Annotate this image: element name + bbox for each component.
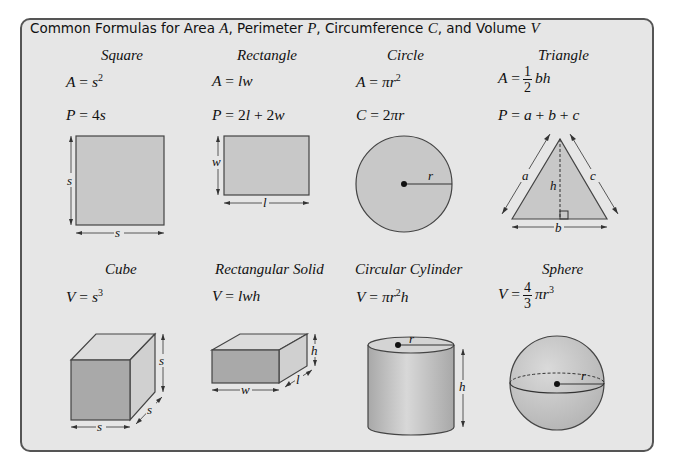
square-side-label: s — [67, 173, 72, 188]
rectangular-solid-width-label: w — [241, 382, 250, 397]
triangle-area-formula: A =12bh — [498, 64, 551, 95]
triangle-diagram: a c h b — [500, 135, 630, 245]
square-perimeter-formula: P = 4s — [66, 106, 106, 124]
cube-diagram: s s s — [66, 330, 176, 440]
sphere-diagram: r — [509, 335, 609, 435]
cylinder-title: Circular Cylinder — [355, 261, 462, 278]
panel-heading: Common Formulas for Area A, Perimeter P,… — [30, 20, 540, 37]
circle-title: Circle — [387, 47, 424, 64]
rectangular-solid-diagram: h l w — [212, 332, 322, 412]
rectangle-title: Rectangle — [237, 47, 297, 64]
square-area-formula: A = s2 — [66, 72, 103, 91]
cylinder-volume-formula: V = πr2h — [356, 287, 409, 306]
cube-width-label: s — [97, 419, 102, 434]
cylinder-height-label: h — [459, 379, 466, 394]
cube-title: Cube — [105, 261, 137, 278]
square-title: Square — [101, 47, 143, 64]
triangle-a-label: a — [522, 168, 529, 183]
rectangular-solid-length-label: l — [296, 372, 300, 387]
cube-volume-formula: V = s3 — [66, 287, 103, 306]
circle-area-formula: A = πr2 — [356, 72, 401, 91]
triangle-h-label: h — [550, 178, 557, 193]
rectangular-solid-volume-formula: V = lwh — [212, 287, 260, 305]
rectangle-length-label: l — [263, 195, 267, 210]
sphere-volume-formula: V =43πr3 — [498, 280, 554, 311]
cylinder-diagram: r h — [365, 335, 475, 445]
triangle-b-label: b — [555, 220, 562, 235]
square-bottom-label: s — [115, 225, 120, 240]
triangle-c-label: c — [590, 168, 596, 183]
square-diagram: s s — [66, 133, 176, 243]
circle-diagram: r — [355, 135, 455, 235]
rectangle-diagram: w l — [212, 134, 322, 214]
triangle-perimeter-formula: P = a + b + c — [498, 106, 579, 124]
rectangle-area-formula: A = lw — [212, 72, 253, 90]
cube-depth-label: s — [147, 402, 152, 417]
cube-height-label: s — [159, 353, 164, 368]
sphere-title: Sphere — [542, 261, 583, 278]
triangle-title: Triangle — [538, 47, 589, 64]
rectangle-perimeter-formula: P = 2l + 2w — [212, 106, 285, 124]
circle-circumference-formula: C = 2πr — [356, 106, 404, 124]
rectangle-width-label: w — [212, 154, 221, 169]
rectangular-solid-title: Rectangular Solid — [215, 261, 324, 278]
rectangular-solid-height-label: h — [311, 343, 318, 358]
